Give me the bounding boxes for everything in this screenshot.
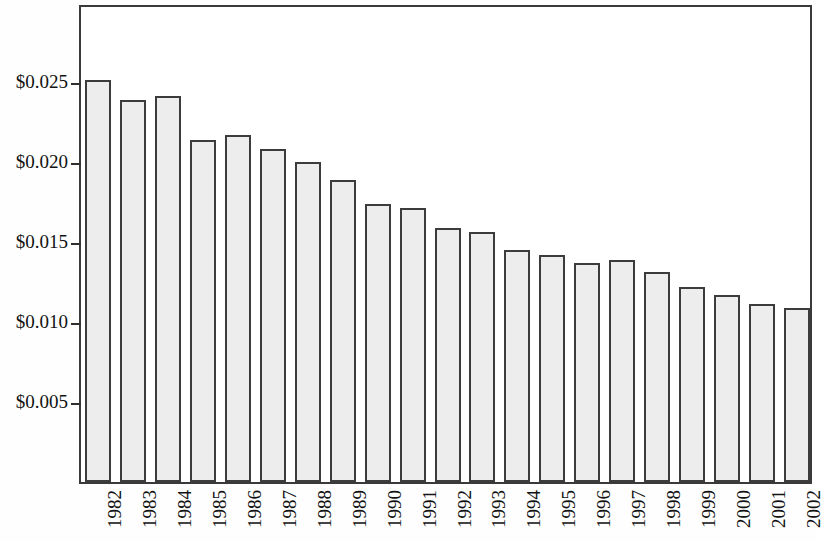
y-axis-tick-label: $0.010: [16, 311, 68, 333]
bar: [400, 208, 426, 482]
x-axis-tick-label: 2002: [803, 490, 825, 528]
x-axis-tick-label: 1983: [139, 490, 161, 528]
plot-area: [79, 5, 812, 484]
x-axis-tick-label: 1991: [419, 490, 441, 528]
bar: [120, 100, 146, 482]
bar: [714, 295, 740, 482]
y-axis-tick: [71, 403, 81, 405]
y-axis-tick-label: $0.020: [16, 151, 68, 173]
x-axis-tick-label: 1984: [174, 490, 196, 528]
x-axis-tick-label: 1997: [628, 490, 650, 528]
y-axis-tick: [71, 83, 81, 85]
bar: [435, 228, 461, 482]
x-axis-tick-label: 1999: [698, 490, 720, 528]
bar: [784, 308, 810, 482]
y-axis-tick: [71, 243, 81, 245]
bar: [260, 149, 286, 482]
x-axis-tick-label: 1990: [384, 490, 406, 528]
bars-layer: [81, 7, 810, 482]
bar: [295, 162, 321, 482]
bar: [365, 204, 391, 482]
y-axis-tick-label: $0.005: [16, 391, 68, 413]
y-axis-tick: [71, 323, 81, 325]
bar: [539, 255, 565, 482]
x-axis-labels: 1982198319841985198619871988198919901991…: [0, 484, 816, 542]
bar: [574, 263, 600, 482]
x-axis-tick-label: 1998: [663, 490, 685, 528]
x-axis-tick-label: 2001: [768, 490, 790, 528]
x-axis-tick-label: 2000: [733, 490, 755, 528]
x-axis-tick-label: 1995: [558, 490, 580, 528]
bar: [679, 287, 705, 482]
bar: [504, 250, 530, 482]
x-axis-tick-label: 1988: [314, 490, 336, 528]
x-axis-tick-label: 1994: [523, 490, 545, 528]
bar: [644, 272, 670, 482]
x-axis-tick-label: 1985: [209, 490, 231, 528]
bar: [469, 232, 495, 482]
x-axis-tick-label: 1982: [104, 490, 126, 528]
bar: [155, 96, 181, 482]
bar: [330, 180, 356, 482]
y-axis-tick-label: $0.015: [16, 231, 68, 253]
y-axis-tick-label: $0.025: [16, 71, 68, 93]
x-axis-tick-label: 1989: [349, 490, 371, 528]
bar: [190, 140, 216, 482]
x-axis-tick-label: 1992: [454, 490, 476, 528]
x-axis-tick-label: 1986: [244, 490, 266, 528]
bar: [225, 135, 251, 482]
x-axis-tick-label: 1993: [488, 490, 510, 528]
y-axis-tick: [71, 163, 81, 165]
bar: [85, 80, 111, 482]
x-axis-tick-label: 1987: [279, 490, 301, 528]
x-axis-tick-label: 1996: [593, 490, 615, 528]
bar: [609, 260, 635, 482]
bar: [749, 304, 775, 482]
